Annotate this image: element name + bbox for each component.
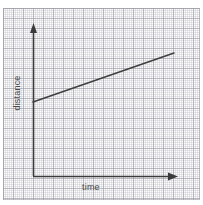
- data-line-constant-speed: [33, 53, 174, 102]
- y-axis-label: distance: [12, 67, 22, 119]
- x-axis-arrowhead-icon: [168, 173, 178, 181]
- y-axis-arrowhead-icon: [30, 23, 37, 33]
- plot-area: [0, 0, 203, 205]
- distance-time-graph-figure: distance time: [0, 0, 203, 205]
- x-axis-label: time: [82, 182, 100, 192]
